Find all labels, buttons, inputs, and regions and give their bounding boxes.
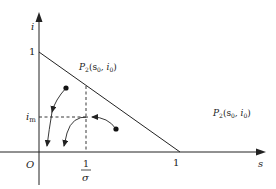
trajectory-2 [92, 117, 116, 129]
i-max-label: im [26, 111, 36, 124]
one-over-sigma-denominator: σ [82, 172, 90, 183]
s-axis-arrow-icon [256, 149, 266, 156]
s-axis-label: s [258, 158, 263, 169]
one-over-sigma-numerator: 1 [83, 158, 89, 169]
i-axis-arrow-icon [36, 12, 43, 22]
trajectory-2-tail [64, 117, 88, 146]
trajectory-1 [52, 88, 66, 112]
trajectory-1-tail [47, 112, 52, 146]
s-axis-tick-1: 1 [173, 157, 179, 168]
i-axis-label: i [31, 21, 34, 32]
point-label-p2-upper: P2(s0, i0) [78, 62, 117, 73]
origin-label: O [26, 159, 34, 170]
point-label-p2-lower: P2(s0, i0) [212, 108, 251, 119]
i-axis-tick-1: 1 [29, 46, 35, 57]
phase-plane-diagram: i 1 s 1 O im 1 σ P2(s0, i0) P2(s0, i0) [0, 0, 276, 189]
